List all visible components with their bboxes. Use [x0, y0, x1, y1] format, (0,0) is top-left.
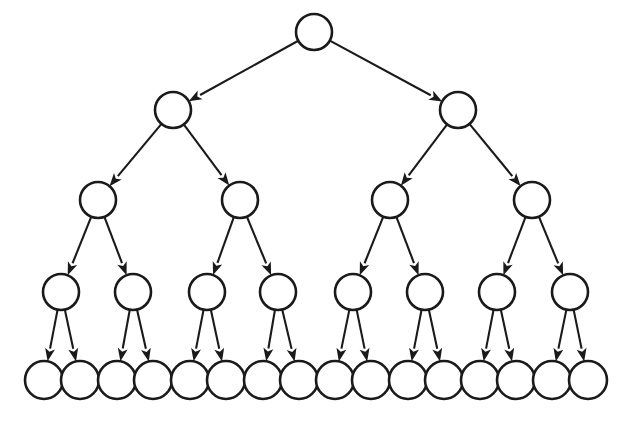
tree-node[interactable] — [316, 361, 354, 399]
tree-node[interactable] — [244, 361, 282, 399]
tree-node[interactable] — [260, 274, 296, 310]
tree-node[interactable] — [372, 182, 408, 218]
tree-node[interactable] — [352, 361, 390, 399]
tree-node[interactable] — [407, 274, 443, 310]
tree-node[interactable] — [25, 361, 63, 399]
tree-node[interactable] — [479, 274, 515, 310]
tree-node[interactable] — [98, 361, 136, 399]
tree-node[interactable] — [461, 361, 499, 399]
tree-node[interactable] — [440, 92, 476, 128]
tree-node[interactable] — [171, 361, 209, 399]
tree-node[interactable] — [134, 361, 172, 399]
tree-node[interactable] — [155, 92, 191, 128]
tree-node[interactable] — [189, 274, 225, 310]
tree-node[interactable] — [569, 361, 607, 399]
tree-node[interactable] — [80, 182, 116, 218]
tree-node[interactable] — [222, 182, 258, 218]
tree-node[interactable] — [389, 361, 427, 399]
tree-node[interactable] — [552, 274, 588, 310]
binary-tree-diagram — [0, 0, 636, 428]
tree-node[interactable] — [514, 182, 550, 218]
tree-node[interactable] — [115, 274, 151, 310]
tree-node[interactable] — [61, 361, 99, 399]
tree-node[interactable] — [335, 274, 371, 310]
tree-node[interactable] — [43, 274, 79, 310]
tree-node[interactable] — [280, 361, 318, 399]
tree-node[interactable] — [296, 14, 332, 50]
tree-node[interactable] — [425, 361, 463, 399]
tree-node[interactable] — [533, 361, 571, 399]
tree-node[interactable] — [497, 361, 535, 399]
tree-node[interactable] — [207, 361, 245, 399]
